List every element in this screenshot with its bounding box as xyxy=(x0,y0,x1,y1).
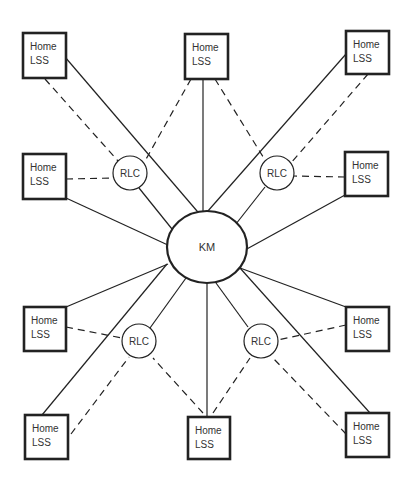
home-label: Home xyxy=(353,315,380,326)
lss-label: LSS xyxy=(192,56,211,67)
rlc-label: RLC xyxy=(129,336,149,347)
solid-link xyxy=(240,268,346,307)
home-lss-node: HomeLSS xyxy=(185,34,228,79)
dashed-link xyxy=(291,74,368,163)
home-label: Home xyxy=(353,39,380,50)
solid-link xyxy=(66,198,170,246)
home-lss-node: HomeLSS xyxy=(345,152,388,196)
lss-label: LSS xyxy=(30,176,49,187)
dashed-link xyxy=(45,79,118,161)
lss-label: LSS xyxy=(32,437,51,448)
home-lss-node: HomeLSS xyxy=(346,307,389,351)
dashed-link xyxy=(294,176,345,177)
lss-label: LSS xyxy=(353,53,372,64)
home-label: Home xyxy=(195,425,222,436)
home-label: Home xyxy=(32,423,59,434)
dashed-link xyxy=(145,79,191,161)
solid-link xyxy=(216,283,248,327)
rlc-label: RLC xyxy=(267,168,287,179)
dashed-link xyxy=(153,358,203,413)
home-label: Home xyxy=(30,162,57,173)
rlc-label: RLC xyxy=(120,168,140,179)
home-lss-box xyxy=(188,417,230,459)
home-label: Home xyxy=(31,315,58,326)
lss-label: LSS xyxy=(352,174,371,185)
km-node: KM xyxy=(167,211,247,283)
home-lss-node: HomeLSS xyxy=(24,307,66,351)
dashed-link xyxy=(66,178,113,179)
home-lss-node: HomeLSS xyxy=(188,417,230,459)
rlc-label: RLC xyxy=(251,336,271,347)
home-lss-node: HomeLSS xyxy=(346,413,389,457)
lss-label: LSS xyxy=(31,329,50,340)
lss-label: LSS xyxy=(195,439,214,450)
home-lss-node: HomeLSS xyxy=(23,154,66,199)
dashed-link xyxy=(278,325,346,340)
home-label: Home xyxy=(30,41,57,52)
km-label: KM xyxy=(199,241,216,253)
solid-link xyxy=(245,195,345,250)
dashed-link xyxy=(215,79,265,160)
dashed-link xyxy=(213,358,250,413)
rlc-node: RLC xyxy=(113,156,147,190)
home-lss-node: HomeLSS xyxy=(25,415,68,459)
home-lss-node: HomeLSS xyxy=(346,31,389,74)
dashed-link xyxy=(272,357,346,434)
home-label: Home xyxy=(352,160,379,171)
solid-link xyxy=(65,57,203,218)
home-label: Home xyxy=(353,421,380,432)
rlc-node: RLC xyxy=(122,324,156,358)
solid-link xyxy=(66,264,168,307)
home-lss-node: HomeLSS xyxy=(23,33,66,78)
lss-label: LSS xyxy=(30,55,49,66)
lss-label: LSS xyxy=(353,435,372,446)
home-label: Home xyxy=(192,42,219,53)
network-diagram: KM RLCRLCRLCRLC HomeLSSHomeLSSHomeLSSHom… xyxy=(0,0,413,489)
solid-link xyxy=(139,188,172,229)
rlc-node: RLC xyxy=(244,324,278,358)
lss-label: LSS xyxy=(353,329,372,340)
solid-link xyxy=(150,278,186,328)
rlc-node: RLC xyxy=(260,156,294,190)
